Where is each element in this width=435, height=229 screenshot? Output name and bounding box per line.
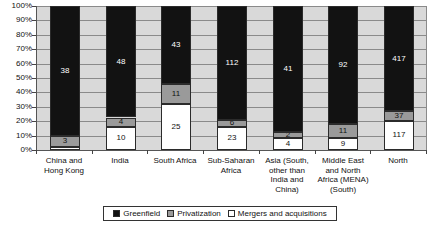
bar-segment: 23 <box>217 127 247 150</box>
bar-segment-value: 11 <box>172 90 180 98</box>
bar-segment: 48 <box>106 6 136 117</box>
y-axis-tick-mark <box>32 64 36 65</box>
bar-segment-value: 4 <box>119 118 123 126</box>
bar-segment <box>50 147 80 150</box>
bar-segment: 25 <box>161 104 191 150</box>
bar-segment: 38 <box>50 6 80 136</box>
y-axis-tick-label: 40% <box>0 88 32 96</box>
x-axis-tick-mark <box>147 150 148 154</box>
bar-segment-value: 23 <box>228 134 237 142</box>
bar-4: 236112 <box>217 6 247 150</box>
y-axis-tick-label: 0% <box>0 146 32 154</box>
square-black-swatch-icon <box>113 210 120 217</box>
bar-3: 251143 <box>161 6 191 150</box>
y-axis-tick-mark <box>32 49 36 50</box>
bar-segment-value: 41 <box>284 65 293 73</box>
y-axis-tick-mark <box>32 136 36 137</box>
square-white-swatch-icon <box>228 210 235 217</box>
bar-segment: 4 <box>273 138 303 150</box>
bar-segment: 3 <box>50 136 80 146</box>
bar-segment-value: 117 <box>393 131 406 139</box>
bar-segment: 41 <box>273 6 303 132</box>
x-axis-tick-mark <box>259 150 260 154</box>
bar-segment: 117 <box>384 121 414 151</box>
bar-segment-value: 48 <box>117 58 126 66</box>
bar-segment-value: 11 <box>339 127 347 135</box>
bar-1: 338 <box>50 6 80 150</box>
y-axis-tick-label: 60% <box>0 60 32 68</box>
y-axis-tick-mark <box>32 78 36 79</box>
y-axis-tick-mark <box>32 20 36 21</box>
bar-segment: 43 <box>161 6 191 84</box>
bar-segment: 92 <box>328 6 358 124</box>
bar-segment-value: 3 <box>63 137 67 145</box>
x-axis-tick-mark <box>92 150 93 154</box>
bar-segment-value: 417 <box>392 55 405 63</box>
bar-segment-value: 2 <box>286 132 290 138</box>
bar-segment: 10 <box>106 127 136 150</box>
chart-legend: Greenfield Privatization Mergers and acq… <box>103 206 337 221</box>
bar-segment: 112 <box>217 6 247 120</box>
bar-segment-value: 25 <box>172 123 181 131</box>
y-axis-tick-label: 90% <box>0 16 32 24</box>
x-axis-tick-mark <box>426 150 427 154</box>
bar-segment-value: 112 <box>226 59 239 67</box>
bar-segment-value: 6 <box>230 120 234 126</box>
legend-item-greenfield: Greenfield <box>113 210 160 218</box>
bar-segment-value: 92 <box>339 61 348 69</box>
y-axis-tick-mark <box>32 92 36 93</box>
y-axis-tick-label: 100% <box>0 2 32 10</box>
stacked-bar-chart: 3381044825114323611242419119211737417 10… <box>0 0 435 229</box>
square-gray-swatch-icon <box>167 210 174 217</box>
bar-5: 4241 <box>273 6 303 150</box>
y-axis-tick-mark <box>32 35 36 36</box>
bar-segment: 9 <box>328 138 358 150</box>
bar-6: 91192 <box>328 6 358 150</box>
bar-segment: 37 <box>384 111 414 120</box>
legend-label: Mergers and acquisitions <box>238 210 327 218</box>
plot-area: 3381044825114323611242419119211737417 <box>36 6 427 151</box>
bar-segment: 11 <box>328 124 358 138</box>
y-axis-tick-label: 70% <box>0 45 32 53</box>
y-axis-tick-mark <box>32 6 36 7</box>
bar-2: 10448 <box>106 6 136 150</box>
x-axis-tick-mark <box>370 150 371 154</box>
bar-segment: 417 <box>384 6 414 111</box>
bar-segment: 2 <box>273 132 303 138</box>
bar-segment: 11 <box>161 84 191 104</box>
x-axis-tick-mark <box>315 150 316 154</box>
y-axis-tick-label: 10% <box>0 132 32 140</box>
legend-item-privatization: Privatization <box>167 210 221 218</box>
bar-segment-value: 4 <box>286 140 290 148</box>
bar-segment: 4 <box>106 118 136 127</box>
bar-segment-value: 38 <box>61 67 70 75</box>
y-axis-tick-label: 80% <box>0 31 32 39</box>
bar-segment-value: 9 <box>341 140 345 148</box>
bar-7: 11737417 <box>384 6 414 150</box>
y-axis-tick-mark <box>32 107 36 108</box>
x-axis-tick-mark <box>203 150 204 154</box>
bar-segment: 6 <box>217 120 247 126</box>
bar-segment-value: 10 <box>117 134 126 142</box>
legend-item-mergers-and-acquisitions: Mergers and acquisitions <box>228 210 327 218</box>
x-axis-category-label: North <box>364 156 432 166</box>
y-axis-tick-label: 50% <box>0 74 32 82</box>
y-axis-tick-label: 20% <box>0 117 32 125</box>
y-axis-tick-mark <box>32 121 36 122</box>
y-axis-tick-label: 30% <box>0 103 32 111</box>
bar-segment-value: 43 <box>172 41 181 49</box>
legend-label: Greenfield <box>123 210 160 218</box>
legend-label: Privatization <box>177 210 221 218</box>
x-axis-tick-mark <box>36 150 37 154</box>
bar-segment-value: 37 <box>395 112 404 120</box>
